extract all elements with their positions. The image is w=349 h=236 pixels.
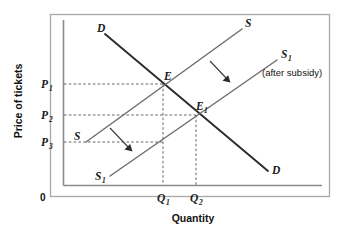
shift-arrow-upper-head <box>223 75 231 82</box>
supply1-curve-label-bottom: S <box>95 170 101 182</box>
supply-curve-label-left: S <box>74 130 80 142</box>
price-tick-p3-sub: 3 <box>48 142 53 151</box>
figure-container: P 1 P 2 P 3 Q 1 Q 2 0 D D S S S 1 S 1 E … <box>0 0 349 236</box>
origin-label: 0 <box>40 192 46 203</box>
price-tick-p1-sub: 1 <box>49 84 53 93</box>
quantity-tick-q2-sub: 2 <box>198 198 203 207</box>
x-axis-title: Quantity <box>172 212 215 224</box>
quantity-tick-q1-label: Q <box>157 192 165 204</box>
supply-demand-chart: P 1 P 2 P 3 Q 1 Q 2 0 D D S S S 1 S 1 E … <box>0 0 349 236</box>
y-axis-title: Price of tickets <box>12 63 24 138</box>
price-tick-p2-label: P <box>41 109 49 121</box>
after-subsidy-annotation: (after subsidy) <box>262 67 322 78</box>
shift-arrow-upper-line <box>210 61 228 80</box>
shift-arrow-lower-line <box>110 128 130 149</box>
quantity-tick-q2-label: Q <box>190 192 198 204</box>
supply-curve-label-top: S <box>245 17 251 29</box>
supply1-curve-label-bottom-sub: 1 <box>102 176 106 185</box>
equilibrium-e1-sub: 1 <box>204 106 208 115</box>
demand-curve-label-top: D <box>96 22 106 34</box>
supply1-curve-label-top-sub: 1 <box>288 54 292 63</box>
equilibrium-e-label: E <box>163 70 172 82</box>
price-tick-p2-sub: 2 <box>48 115 53 124</box>
quantity-tick-q1-sub: 1 <box>166 198 170 207</box>
price-tick-p1-label: P <box>41 78 49 90</box>
demand-curve-label-bottom: D <box>271 164 281 176</box>
price-tick-p3-label: P <box>41 136 49 148</box>
supply-curve <box>86 29 242 142</box>
supply1-curve-label-top: S <box>281 48 287 60</box>
equilibrium-e1-label: E <box>195 100 204 112</box>
